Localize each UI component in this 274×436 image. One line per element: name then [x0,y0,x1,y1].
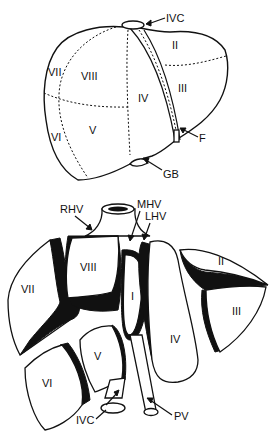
exp-seg-II: II [218,255,224,267]
top-seg-V: V [89,124,97,136]
top-seg-VI: VI [51,131,61,143]
top-seg-IV: IV [138,92,149,104]
falciform-end [174,130,179,142]
top-seg-II: II [172,39,178,51]
gb-arrow [146,160,162,170]
exp-seg-V: V [94,350,102,362]
segment-III [206,286,266,352]
top-gb-label: GB [163,168,179,180]
exp-seg-IV: IV [170,333,181,345]
pv-label: PV [174,410,189,422]
top-seg-III: III [178,82,187,94]
exp-seg-III: III [232,305,241,317]
top-f-label: F [199,132,206,144]
liver-segments-diagram: II III IV V VI VII VIII IVC F GB [0,0,274,436]
liver-outline [44,27,228,180]
exploded-liver-view: II III I IV V VI VII VIII RHV MHV LHV IV… [8,198,268,430]
ivc-ellipse [122,21,144,29]
top-seg-VII: VII [48,66,61,78]
rhv-label: RHV [60,203,84,215]
top-ivc-label: IVC [166,12,184,24]
exp-seg-I: I [131,290,134,302]
exp-seg-VIII: VIII [80,261,97,273]
mhv-label: MHV [137,198,162,210]
exp-seg-VI: VI [42,377,52,389]
lhv-label: LHV [145,210,167,222]
exp-seg-VII: VII [21,283,34,295]
ivc-bottom-label: IVC [76,414,94,426]
top-liver-view: II III IV V VI VII VIII IVC F GB [44,12,228,180]
top-seg-VIII: VIII [81,70,98,82]
